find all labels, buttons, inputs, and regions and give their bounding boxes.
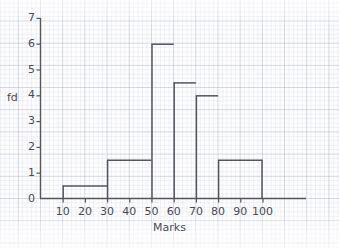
- y-tick-label: 0: [21, 192, 35, 205]
- y-axis-title: fd: [7, 91, 18, 104]
- y-tick-label: 3: [21, 114, 35, 127]
- histogram-bar: [152, 44, 174, 199]
- axes-group: [40, 18, 306, 199]
- histogram-bar: [218, 160, 262, 199]
- x-tick-label: 100: [250, 205, 276, 218]
- x-axis-title: Marks: [0, 221, 339, 234]
- histogram-bar: [196, 95, 218, 198]
- histogram-bar: [107, 160, 151, 199]
- y-tick-label: 6: [21, 37, 35, 50]
- y-tick-label: 1: [21, 166, 35, 179]
- histogram-bars: [63, 44, 263, 199]
- y-tick-label: 4: [21, 88, 35, 101]
- histogram-screenshot: 01234567 102030405060708090100 fd Marks: [0, 0, 339, 248]
- y-tick-label: 5: [21, 63, 35, 76]
- histogram-bar: [174, 82, 196, 198]
- histogram-bar: [63, 186, 107, 199]
- y-tick-label: 7: [21, 11, 35, 24]
- y-tick-label: 2: [21, 140, 35, 153]
